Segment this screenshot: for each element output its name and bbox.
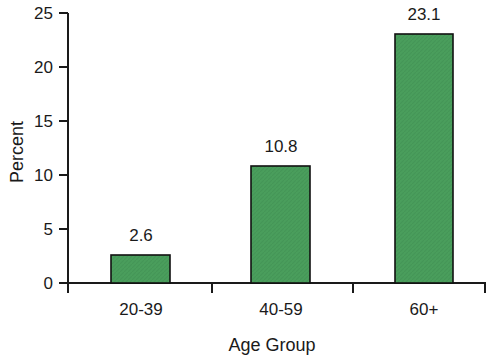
y-tick-label-5: 5 <box>44 220 53 239</box>
bar-40-59 <box>251 166 310 283</box>
y-tick-label-20: 20 <box>34 58 53 77</box>
bar-value-label-20-39: 2.6 <box>129 226 153 245</box>
y-tick-label-25: 25 <box>34 4 53 23</box>
chart-canvas: 25 20 15 10 5 0 Percent 20-39 40-59 60+ <box>0 0 490 359</box>
bar-20-39 <box>111 255 170 283</box>
x-tick-label-20-39: 20-39 <box>119 300 162 319</box>
y-tick-label-15: 15 <box>34 112 53 131</box>
bar-value-label-40-59: 10.8 <box>264 137 297 156</box>
y-tick-label-10: 10 <box>34 166 53 185</box>
bar-group-60-plus: 23.1 <box>395 5 453 283</box>
y-axis-title: Percent <box>7 121 27 183</box>
bar-value-label-60-plus: 23.1 <box>407 5 440 24</box>
bar-chart: 25 20 15 10 5 0 Percent 20-39 40-59 60+ <box>0 0 490 359</box>
x-axis-title: Age Group <box>228 335 315 355</box>
x-tick-label-60-plus: 60+ <box>410 300 439 319</box>
bar-60-plus <box>395 34 453 283</box>
x-tick-label-40-59: 40-59 <box>259 300 302 319</box>
y-tick-label-0: 0 <box>44 274 53 293</box>
